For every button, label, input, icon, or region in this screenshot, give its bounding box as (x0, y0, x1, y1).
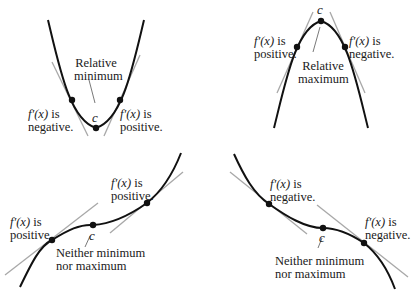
leader-line (313, 27, 320, 52)
label-left: f′(x) is positive. (10, 216, 53, 242)
point-label-c: c (92, 110, 98, 126)
label-right: f′(x) is negative. (349, 35, 394, 61)
derivative-symbol: f′(x) (365, 215, 385, 229)
label-is: is (369, 34, 380, 48)
title-relative-minimum: Relative minimum (74, 57, 118, 83)
label-is: is (48, 107, 59, 121)
label-sign: positive. (10, 229, 53, 242)
title-neither: Neither minimum nor maximum (275, 255, 364, 281)
point-right (342, 44, 348, 50)
label-sign: positive. (254, 48, 297, 61)
label-sign: negative. (349, 48, 394, 61)
derivative-symbol: f′(x) (254, 34, 274, 48)
point-right (117, 97, 123, 103)
label-left: f′(x) is negative. (28, 108, 73, 134)
label-is: is (140, 107, 151, 121)
label-left: f′(x) is positive. (254, 35, 297, 61)
derivative-symbol: f′(x) (111, 176, 131, 190)
label-sign: negative. (270, 191, 315, 204)
label-sign: negative. (365, 229, 410, 242)
label-is: is (30, 215, 41, 229)
label-right: f′(x) is negative. (365, 216, 410, 242)
label-sign: negative. (28, 121, 73, 134)
derivative-symbol: f′(x) (10, 215, 30, 229)
title-line2: minimum (74, 70, 118, 83)
title-neither: Neither minimum nor maximum (56, 247, 145, 273)
label-left: f′(x) is negative. (270, 178, 315, 204)
derivative-symbol: f′(x) (349, 34, 369, 48)
label-is: is (274, 34, 285, 48)
label-sign: positive. (111, 190, 154, 203)
label-is: is (131, 176, 142, 190)
point-label-c: c (319, 230, 325, 246)
label-sign: positive. (120, 121, 163, 134)
point-label-c: c (317, 2, 323, 18)
title-line2: nor maximum (275, 268, 364, 281)
label-right: f′(x) is positive. (120, 108, 163, 134)
label-right: f′(x) is positive. (111, 177, 154, 203)
point-left (69, 97, 75, 103)
title-relative-maximum: Relative maximum (298, 60, 348, 86)
label-is: is (385, 215, 396, 229)
derivative-symbol: f′(x) (120, 107, 140, 121)
leader-line (89, 80, 95, 103)
title-line2: nor maximum (56, 260, 145, 273)
derivative-symbol: f′(x) (270, 177, 290, 191)
point-label-c: c (89, 228, 95, 244)
point-c (318, 18, 324, 24)
derivative-symbol: f′(x) (28, 107, 48, 121)
title-line2: maximum (298, 73, 348, 86)
label-is: is (290, 177, 301, 191)
